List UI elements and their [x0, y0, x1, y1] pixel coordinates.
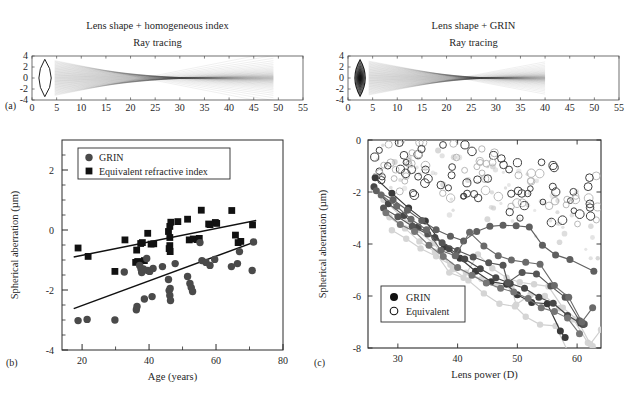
panel-label-a: (a) — [5, 100, 16, 111]
svg-text:0: 0 — [30, 102, 35, 113]
svg-text:35: 35 — [199, 102, 209, 113]
panel-label-b: (b) — [6, 357, 18, 368]
svg-text:-6: -6 — [353, 291, 361, 302]
svg-text:-8: -8 — [353, 343, 361, 354]
svg-text:35: 35 — [515, 102, 525, 113]
svg-text:30: 30 — [491, 102, 501, 113]
svg-text:-2: -2 — [353, 187, 361, 198]
svg-text:0: 0 — [356, 135, 361, 146]
svg-text:25: 25 — [466, 102, 476, 113]
panel-a-right-plot: 0510152025303540455055420-2-4 — [316, 52, 631, 122]
panel-a-left-raytrace: Lens shape + homogeneous index Ray traci… — [0, 0, 315, 118]
svg-text:Equivalent: Equivalent — [406, 306, 450, 317]
svg-text:50: 50 — [273, 102, 283, 113]
svg-text:55: 55 — [298, 102, 308, 113]
panel-b-chart: 2040608020-2-4Age (years)Spherical aberr… — [0, 118, 320, 393]
svg-text:Age (years): Age (years) — [148, 371, 198, 383]
svg-text:45: 45 — [249, 102, 259, 113]
svg-text:80: 80 — [278, 355, 288, 366]
panel-a-right-raytrace: Lens shape + GRIN Ray tracing 0510152025… — [316, 0, 631, 118]
svg-text:0: 0 — [49, 225, 54, 236]
svg-text:50: 50 — [589, 102, 599, 113]
svg-text:Lens power (D): Lens power (D) — [451, 369, 518, 381]
svg-text:Equivalent refractive index: Equivalent refractive index — [99, 166, 208, 177]
svg-text:4: 4 — [23, 50, 28, 61]
panel-a-left-title: Lens shape + homogeneous index — [0, 20, 315, 31]
svg-text:45: 45 — [565, 102, 575, 113]
svg-text:0: 0 — [23, 72, 28, 83]
svg-text:40: 40 — [144, 355, 154, 366]
svg-text:5: 5 — [54, 102, 59, 113]
svg-text:30: 30 — [393, 353, 403, 364]
panel-a-left-subtitle: Ray tracing — [0, 37, 315, 48]
svg-text:2: 2 — [339, 61, 344, 72]
svg-text:-4: -4 — [353, 239, 361, 250]
panel-a-left-plot: 0510152025303540455055420-2-4 — [0, 52, 315, 122]
svg-text:-4: -4 — [336, 94, 344, 105]
svg-text:GRIN: GRIN — [99, 152, 123, 163]
svg-text:0: 0 — [346, 102, 351, 113]
panel-a-right-subtitle: Ray tracing — [316, 37, 631, 48]
svg-text:Spherical aberration (µm): Spherical aberration (µm) — [9, 190, 21, 299]
svg-text:15: 15 — [417, 102, 427, 113]
svg-text:40: 40 — [453, 353, 463, 364]
svg-text:10: 10 — [392, 102, 402, 113]
svg-text:Spherical aberration (µm): Spherical aberration (µm) — [317, 189, 329, 298]
svg-text:GRIN: GRIN — [406, 292, 430, 303]
svg-text:-2: -2 — [46, 285, 54, 296]
svg-text:25: 25 — [150, 102, 160, 113]
svg-text:20: 20 — [442, 102, 452, 113]
svg-text:-4: -4 — [20, 94, 28, 105]
svg-text:4: 4 — [339, 50, 344, 61]
svg-text:60: 60 — [572, 353, 582, 364]
figure-root: Lens shape + homogeneous index Ray traci… — [0, 0, 631, 395]
panel-label-c: (c) — [314, 357, 325, 368]
svg-text:2: 2 — [23, 61, 28, 72]
svg-text:40: 40 — [224, 102, 234, 113]
svg-text:55: 55 — [614, 102, 624, 113]
svg-text:60: 60 — [211, 355, 221, 366]
svg-text:30: 30 — [175, 102, 185, 113]
svg-text:5: 5 — [370, 102, 375, 113]
svg-text:15: 15 — [101, 102, 111, 113]
svg-text:-2: -2 — [20, 83, 28, 94]
panel-c-chart: 304050600-2-4-6-8Lens power (D)Spherical… — [311, 118, 631, 393]
svg-text:10: 10 — [76, 102, 86, 113]
svg-text:20: 20 — [77, 355, 87, 366]
svg-text:-4: -4 — [46, 345, 54, 356]
svg-text:0: 0 — [339, 72, 344, 83]
svg-text:40: 40 — [540, 102, 550, 113]
panel-a-right-title: Lens shape + GRIN — [316, 20, 631, 31]
svg-text:20: 20 — [126, 102, 136, 113]
svg-text:2: 2 — [49, 165, 54, 176]
svg-text:50: 50 — [512, 353, 522, 364]
svg-text:-2: -2 — [336, 83, 344, 94]
